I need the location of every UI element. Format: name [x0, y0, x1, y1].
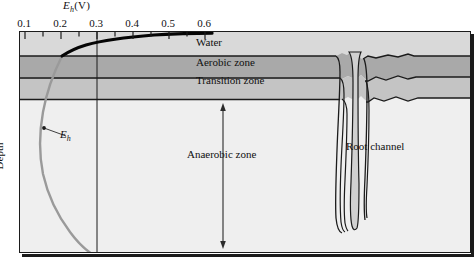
redox-profile-figure: Eh(V) 0.1 0.2 0.3 0.4 0.5 0.6 Depth — [0, 0, 476, 277]
x-tick-label-3: 0.4 — [125, 17, 139, 29]
label-water: Water — [196, 36, 222, 48]
eh-curve-symbol: E — [60, 128, 67, 140]
x-tick-label-5: 0.6 — [197, 17, 211, 29]
x-tick-label-4: 0.5 — [161, 17, 175, 29]
x-axis-tick-labels: 0.1 0.2 0.3 0.4 0.5 0.6 — [0, 17, 476, 31]
eh-curve-subscript: h — [67, 134, 71, 143]
eh-label-anchor-dot — [42, 126, 46, 130]
label-root-channel: Root channel — [346, 140, 404, 152]
y-axis-title: Depth — [0, 143, 5, 170]
x-axis-title: Eh(V) — [63, 0, 90, 14]
frame-shadow-right — [471, 34, 474, 257]
x-axis-unit: (V) — [74, 0, 90, 11]
frame-shadow-bottom — [22, 254, 474, 257]
x-axis-symbol: E — [63, 0, 70, 11]
x-axis-ticks — [20, 32, 471, 44]
x-tick-label-0: 0.1 — [17, 17, 31, 29]
label-aerobic-zone: Aerobic zone — [196, 56, 255, 68]
label-anaerobic-zone: Anaerobic zone — [187, 148, 256, 160]
x-tick-label-1: 0.2 — [53, 17, 67, 29]
x-tick-label-2: 0.3 — [89, 17, 103, 29]
label-eh-curve: Eh — [60, 128, 71, 143]
label-transition-zone: Transition zone — [196, 74, 264, 86]
